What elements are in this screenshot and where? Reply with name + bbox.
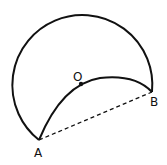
label-b: B [150, 95, 158, 109]
label-a: A [34, 146, 43, 160]
inner-arc [39, 77, 152, 140]
crescent-diagram: O A B [0, 0, 167, 165]
label-o: O [73, 70, 82, 84]
chord-ab [39, 92, 152, 140]
